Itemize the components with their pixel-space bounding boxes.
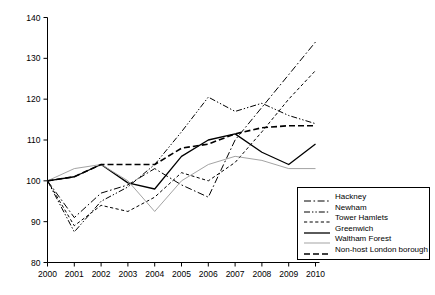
legend-label: Waltham Forest (335, 234, 391, 244)
x-tick-label: 2004 (145, 269, 164, 279)
series-line-tower-hamlets (48, 71, 316, 226)
x-tick-label: 2009 (279, 269, 298, 279)
x-tick-label: 2007 (226, 269, 245, 279)
y-tick-label: 130 (26, 53, 40, 63)
x-tick-label: 2001 (65, 269, 84, 279)
data-series (48, 42, 316, 232)
x-tick-label: 2010 (306, 269, 325, 279)
x-tick-label: 2006 (199, 269, 218, 279)
y-tick-label: 80 (31, 258, 41, 268)
legend-item: Newham (303, 203, 425, 214)
legend-item: Waltham Forest (303, 234, 425, 245)
y-tick-label: 100 (26, 176, 40, 186)
x-tick-label: 2008 (252, 269, 271, 279)
y-tick-label: 90 (31, 217, 41, 227)
chart-legend: HackneyNewhamTower HamletsGreenwichWalth… (297, 187, 430, 260)
legend-item: Greenwich (303, 224, 425, 235)
legend-key-swatch (303, 213, 331, 223)
axes: 8090100110120130140200020012002200320042… (26, 13, 325, 279)
legend-key-swatch (303, 203, 331, 213)
x-tick-label: 2000 (38, 269, 57, 279)
x-tick-label: 2005 (172, 269, 191, 279)
legend-key-swatch (303, 245, 331, 255)
y-tick-label: 120 (26, 94, 40, 104)
legend-item: Non-host London borough (303, 245, 425, 256)
legend-label: Greenwich (335, 224, 373, 234)
legend-key-swatch (303, 234, 331, 244)
legend-key-swatch (303, 192, 331, 202)
legend-label: Non-host London borough (335, 245, 428, 255)
chart-container: 8090100110120130140200020012002200320042… (0, 0, 435, 295)
legend-key-swatch (303, 224, 331, 234)
series-line-hackney (48, 42, 316, 218)
y-tick-label: 110 (27, 135, 41, 145)
legend-item: Hackney (303, 192, 425, 203)
x-tick-label: 2003 (118, 269, 137, 279)
legend-label: Tower Hamlets (335, 213, 388, 223)
legend-label: Newham (335, 203, 367, 213)
series-line-waltham-forest (48, 156, 316, 211)
y-tick-label: 140 (26, 13, 40, 23)
legend-item: Tower Hamlets (303, 213, 425, 224)
legend-label: Hackney (335, 192, 366, 202)
x-tick-label: 2002 (92, 269, 111, 279)
